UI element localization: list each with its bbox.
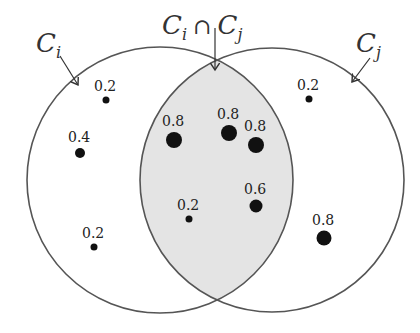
point-value-label: 0.2	[94, 78, 116, 94]
point-dot	[103, 97, 110, 104]
point-dot	[306, 96, 313, 103]
point-dot	[250, 200, 263, 213]
arrow-ci-icon	[60, 56, 78, 85]
svg-text:Cj: Cj	[356, 28, 381, 62]
point-dot	[91, 244, 98, 251]
point-value-label: 0.8	[162, 113, 184, 129]
point-dot	[75, 148, 85, 158]
label-cj: Cj	[352, 28, 381, 82]
point-value-label: 0.8	[244, 118, 266, 134]
arrow-cj-icon	[352, 58, 370, 82]
label-ci: Ci	[36, 28, 78, 85]
point-dot	[317, 231, 332, 246]
point-value-label: 0.6	[244, 181, 266, 197]
venn-diagram: Ci Cj Ci∩Cj 0.20.40.20.80.80.80.20.60.20…	[0, 0, 420, 333]
point-dot	[166, 132, 182, 148]
data-point: 0.4	[68, 129, 90, 158]
point-value-label: 0.2	[177, 197, 199, 213]
point-value-label: 0.4	[68, 129, 90, 145]
point-dot	[248, 137, 264, 153]
point-dot	[221, 125, 237, 141]
point-dot	[186, 216, 193, 223]
data-point: 0.8	[312, 212, 334, 246]
svg-text:Ci: Ci	[36, 28, 61, 62]
label-intersection: Ci∩Cj	[162, 10, 242, 70]
point-value-label: 0.2	[82, 225, 104, 241]
point-value-label: 0.8	[217, 106, 239, 122]
svg-text:Ci∩Cj: Ci∩Cj	[162, 10, 242, 44]
point-value-label: 0.2	[297, 77, 319, 93]
point-value-label: 0.8	[312, 212, 334, 228]
data-point: 0.2	[94, 78, 116, 104]
intersection-region	[140, 48, 404, 312]
data-point: 0.2	[297, 77, 319, 103]
data-point: 0.2	[82, 225, 104, 251]
